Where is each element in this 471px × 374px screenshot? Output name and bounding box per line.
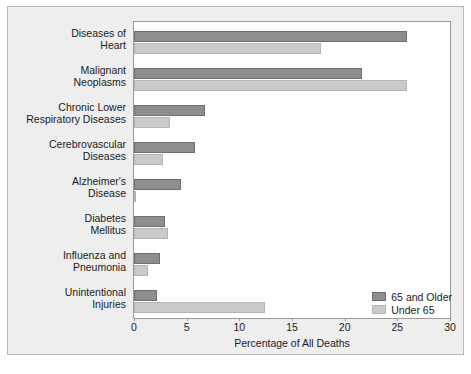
legend-item[interactable]: 65 and Older [372, 290, 452, 303]
figure-panel: Diseases ofHeartMalignantNeoplasmsChroni… [7, 6, 464, 355]
plot-area [133, 21, 451, 319]
bar-under-65[interactable] [134, 154, 163, 165]
x-tick-label: 0 [131, 321, 137, 333]
legend-label: Under 65 [391, 304, 434, 316]
bar-under-65[interactable] [134, 265, 148, 276]
bar-under-65[interactable] [134, 191, 136, 202]
y-axis-label-line: Diseases [8, 150, 126, 162]
y-axis-category-labels: Diseases ofHeartMalignantNeoplasmsChroni… [8, 21, 130, 319]
bar-group [134, 142, 450, 170]
y-axis-label-line: Chronic Lower [8, 101, 126, 113]
y-axis-label-line: Mellitus [8, 224, 126, 236]
bar-65-and-older[interactable] [134, 216, 165, 227]
bar-under-65[interactable] [134, 117, 170, 128]
y-axis-label-line: Diseases of [8, 27, 126, 39]
bar-group [134, 179, 450, 207]
y-axis-label-line: Injuries [8, 298, 126, 310]
bar-65-and-older[interactable] [134, 179, 181, 190]
legend-swatch-under-65 [372, 305, 386, 314]
figure-caption [10, 361, 310, 373]
y-axis-label-line: Respiratory Diseases [8, 113, 126, 125]
y-axis-label-line: Malignant [8, 64, 126, 76]
x-axis-title: Percentage of All Deaths [133, 337, 451, 349]
y-axis-label-line: Neoplasms [8, 76, 126, 88]
bar-group [134, 68, 450, 96]
bar-65-and-older[interactable] [134, 253, 160, 264]
y-axis-label: DiabetesMellitus [8, 212, 126, 236]
x-tick-label: 25 [391, 321, 403, 333]
bar-group [134, 216, 450, 244]
y-axis-label: Diseases ofHeart [8, 27, 126, 51]
y-axis-label: CerebrovascularDiseases [8, 138, 126, 162]
y-axis-label-line: Diabetes [8, 212, 126, 224]
y-axis-label-line: Alzheimer's [8, 175, 126, 187]
y-axis-label-line: Influenza and [8, 249, 126, 261]
y-axis-label: UnintentionalInjuries [8, 286, 126, 310]
bar-65-and-older[interactable] [134, 31, 407, 42]
bars-layer [134, 22, 450, 318]
y-axis-label: MalignantNeoplasms [8, 64, 126, 88]
legend-label: 65 and Older [391, 291, 452, 303]
legend-item[interactable]: Under 65 [372, 303, 452, 316]
y-axis-label-line: Pneumonia [8, 261, 126, 273]
x-tick-label: 30 [444, 321, 456, 333]
x-tick-label: 20 [339, 321, 351, 333]
y-axis-label-line: Cerebrovascular [8, 138, 126, 150]
bar-group [134, 105, 450, 133]
legend-swatch-65-and-older [372, 292, 386, 301]
chart-legend: 65 and OlderUnder 65 [369, 288, 455, 318]
bar-group [134, 31, 450, 59]
bar-under-65[interactable] [134, 228, 168, 239]
x-axis-ticks: 051015202530 [133, 321, 451, 337]
bar-under-65[interactable] [134, 43, 321, 54]
bar-under-65[interactable] [134, 302, 265, 313]
bar-group [134, 253, 450, 281]
bar-65-and-older[interactable] [134, 105, 205, 116]
y-axis-label: Alzheimer'sDisease [8, 175, 126, 199]
y-axis-label-line: Heart [8, 39, 126, 51]
y-axis-label: Influenza andPneumonia [8, 249, 126, 273]
bar-65-and-older[interactable] [134, 68, 362, 79]
x-tick-label: 10 [233, 321, 245, 333]
bar-65-and-older[interactable] [134, 142, 195, 153]
bar-under-65[interactable] [134, 80, 407, 91]
y-axis-label-line: Unintentional [8, 286, 126, 298]
y-axis-label-line: Disease [8, 187, 126, 199]
x-tick-label: 15 [286, 321, 298, 333]
y-axis-label: Chronic LowerRespiratory Diseases [8, 101, 126, 125]
bar-65-and-older[interactable] [134, 290, 157, 301]
x-tick-label: 5 [184, 321, 190, 333]
